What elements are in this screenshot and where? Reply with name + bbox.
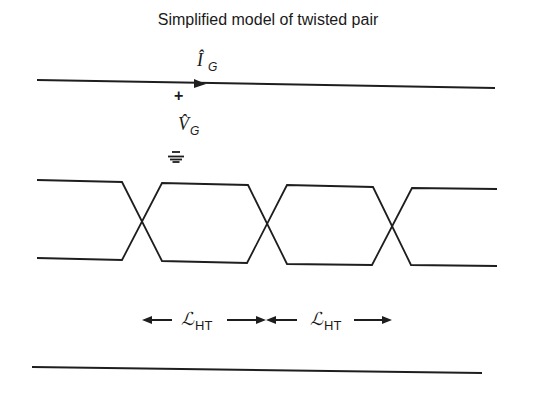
polarity-plus: + bbox=[174, 87, 183, 104]
current-subscript: G bbox=[208, 60, 217, 74]
length-symbol-2: ℒ bbox=[310, 308, 324, 329]
twisted-wire-b bbox=[37, 183, 497, 265]
diagram-title: Simplified model of twisted pair bbox=[158, 11, 379, 28]
voltage-subscript: G bbox=[190, 124, 199, 138]
ground-symbol-icon bbox=[168, 152, 184, 162]
arrowhead-right-icon bbox=[194, 79, 206, 88]
arrow-left-icon bbox=[142, 316, 152, 324]
voltage-label: V̂ G bbox=[178, 114, 199, 138]
arrow-right-icon bbox=[256, 316, 266, 324]
length-symbol-1: ℒ bbox=[181, 308, 195, 329]
length-subscript-2: HT bbox=[324, 318, 341, 333]
half-twist-length-2: ℒ HT bbox=[266, 308, 392, 333]
top-conductor bbox=[37, 79, 495, 88]
half-twist-length-1: ℒ HT bbox=[142, 308, 266, 333]
current-symbol: Î bbox=[196, 49, 205, 70]
arrow-right-icon bbox=[382, 316, 392, 324]
length-subscript-1: HT bbox=[195, 318, 212, 333]
bottom-conductor bbox=[32, 367, 482, 373]
arrow-left-icon bbox=[266, 316, 276, 324]
top-wire bbox=[37, 80, 495, 88]
twisted-pair-diagram: Simplified model of twisted pair Î G + V… bbox=[0, 0, 536, 394]
current-label: Î G bbox=[196, 49, 217, 74]
